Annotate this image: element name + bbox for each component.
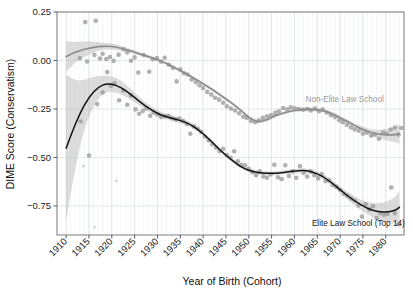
scatter-point bbox=[232, 149, 237, 154]
scatter-point bbox=[132, 55, 137, 60]
scatter-point bbox=[237, 111, 242, 116]
scatter-point bbox=[352, 127, 357, 132]
scatter-point bbox=[125, 102, 130, 107]
scatter-point bbox=[213, 95, 218, 100]
scatter-point bbox=[388, 127, 393, 132]
scatter-point bbox=[361, 131, 366, 136]
scatter-point bbox=[298, 164, 303, 169]
scatter-point bbox=[261, 116, 266, 121]
y-tick-label: 0.00 bbox=[33, 55, 52, 66]
scatter-point bbox=[389, 185, 394, 190]
scatter-point bbox=[279, 177, 284, 182]
scatter-point bbox=[225, 104, 230, 109]
scatter-point bbox=[393, 211, 398, 216]
scatter-point bbox=[277, 109, 282, 114]
scatter-point bbox=[111, 59, 116, 64]
scatter-point bbox=[147, 69, 152, 74]
y-tick-label: −0.50 bbox=[27, 152, 51, 163]
scatter-point bbox=[83, 21, 86, 24]
scatter-point bbox=[201, 86, 206, 91]
scatter-point bbox=[100, 51, 105, 56]
scatter-point bbox=[272, 163, 277, 168]
scatter-point bbox=[116, 52, 121, 57]
scatter-point bbox=[80, 121, 83, 124]
scatter-point bbox=[188, 131, 193, 136]
scatter-point bbox=[85, 59, 90, 64]
y-tick-label: −0.25 bbox=[27, 103, 51, 114]
scatter-point bbox=[98, 56, 103, 61]
scatter-point bbox=[137, 112, 142, 117]
scatter-point bbox=[221, 146, 226, 151]
scatter-point bbox=[197, 83, 202, 88]
scatter-point bbox=[283, 163, 288, 168]
scatter-point bbox=[288, 105, 293, 110]
y-tick-label: −0.75 bbox=[27, 200, 51, 211]
chart-figure: 0.250.00−0.25−0.50−0.75 1910191519201925… bbox=[0, 0, 413, 291]
scatter-point bbox=[115, 179, 118, 182]
scatter-point bbox=[377, 137, 382, 142]
series-annotation: Non-Elite Law School bbox=[305, 95, 383, 104]
series-annotation: Elite Law School (Top 14) bbox=[312, 219, 405, 228]
scatter-point bbox=[287, 174, 292, 179]
scatter-point bbox=[371, 204, 376, 209]
scatter-point bbox=[92, 53, 97, 58]
scatter-point bbox=[174, 79, 179, 84]
scatter-point bbox=[345, 123, 350, 128]
scatter-point bbox=[162, 55, 167, 60]
dime-score-cohort-chart: 0.250.00−0.25−0.50−0.75 1910191519201925… bbox=[0, 0, 413, 291]
scatter-point bbox=[205, 90, 210, 95]
scatter-point bbox=[105, 70, 110, 75]
scatter-point bbox=[305, 174, 310, 179]
scatter-point bbox=[88, 155, 91, 158]
scatter-point bbox=[233, 108, 238, 113]
scatter-point bbox=[133, 107, 138, 112]
scatter-point bbox=[254, 173, 259, 178]
scatter-point bbox=[209, 92, 214, 97]
scatter-point bbox=[281, 106, 286, 111]
scatter-point bbox=[360, 214, 365, 219]
scatter-point bbox=[93, 226, 96, 229]
scatter-point bbox=[217, 97, 222, 102]
scatter-point bbox=[100, 90, 105, 95]
scatter-point bbox=[229, 106, 234, 111]
scatter-point bbox=[117, 98, 122, 103]
x-axis-title: Year of Birth (Cohort) bbox=[183, 275, 282, 287]
scatter-point bbox=[148, 113, 153, 118]
scatter-point bbox=[265, 176, 270, 181]
scatter-point bbox=[399, 126, 404, 131]
scatter-point bbox=[265, 114, 270, 119]
scatter-point bbox=[136, 70, 141, 75]
scatter-point bbox=[221, 100, 226, 105]
scatter-point bbox=[243, 163, 248, 168]
y-tick-label: 0.25 bbox=[33, 6, 52, 17]
scatter-point bbox=[108, 55, 113, 60]
scatter-point bbox=[95, 19, 98, 22]
scatter-point bbox=[294, 176, 299, 181]
scatter-point bbox=[129, 59, 134, 64]
scatter-point bbox=[393, 125, 398, 130]
scatter-point bbox=[95, 102, 100, 107]
scatter-point bbox=[82, 165, 85, 168]
y-axis-title: DIME Score (Conservatism) bbox=[4, 59, 16, 190]
scatter-point bbox=[316, 176, 321, 181]
scatter-point bbox=[78, 56, 83, 61]
